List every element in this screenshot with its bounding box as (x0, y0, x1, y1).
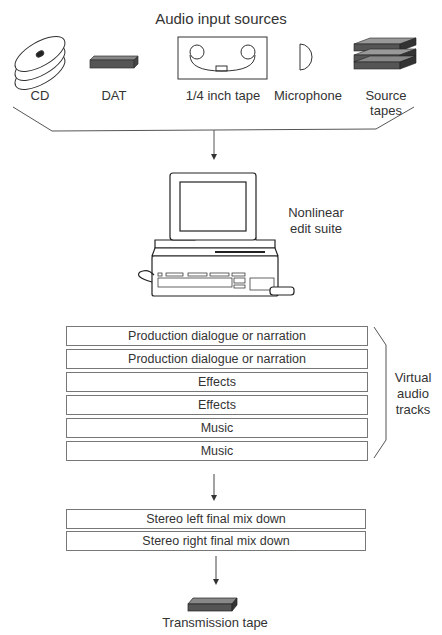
virtual-track: Effects (66, 395, 368, 415)
virtual-track: Production dialogue or narration (66, 349, 368, 369)
virtual-track: Effects (66, 372, 368, 392)
source-label-microphone: Microphone (270, 88, 346, 103)
source-label-source-tapes: Source tapes (356, 88, 416, 118)
virtual-track: Music (66, 441, 368, 461)
mixdown-track: Stereo left final mix down (66, 509, 366, 529)
virtual-tracks-label-line: Virtual (384, 370, 442, 386)
mixdown-track: Stereo right final mix down (66, 531, 366, 551)
virtual-track: Music (66, 418, 368, 438)
edit-suite-label-line: edit suite (281, 221, 351, 237)
source-label-dat: DAT (92, 88, 136, 103)
dat-cassette-icon (90, 56, 138, 68)
edit-suite-label: Nonlinear edit suite (281, 205, 351, 237)
source-label-line: Source (356, 88, 416, 103)
source-label-cd: CD (20, 88, 60, 103)
cd-discs-icon (10, 30, 70, 97)
microphone-icon (300, 44, 312, 70)
virtual-tracks-label-line: tracks (384, 402, 442, 418)
virtual-track: Production dialogue or narration (66, 326, 368, 346)
tape-stack-icon (354, 38, 416, 69)
computer-workstation-icon (139, 173, 295, 296)
source-label-quarter-inch-tape: 1/4 inch tape (178, 88, 268, 103)
transmission-tape-icon (188, 598, 237, 611)
audio-input-sources-title: Audio input sources (0, 10, 442, 27)
reel-tape-icon (178, 37, 267, 79)
source-label-line: tapes (356, 103, 416, 118)
source-funnel-lines (13, 107, 414, 160)
virtual-tracks-label: Virtual audio tracks (384, 370, 442, 418)
arrow-down (211, 474, 217, 501)
arrow-down (213, 556, 219, 585)
transmission-tape-label: Transmission tape (140, 615, 290, 630)
edit-suite-label-line: Nonlinear (281, 205, 351, 221)
virtual-tracks-label-line: audio (384, 386, 442, 402)
